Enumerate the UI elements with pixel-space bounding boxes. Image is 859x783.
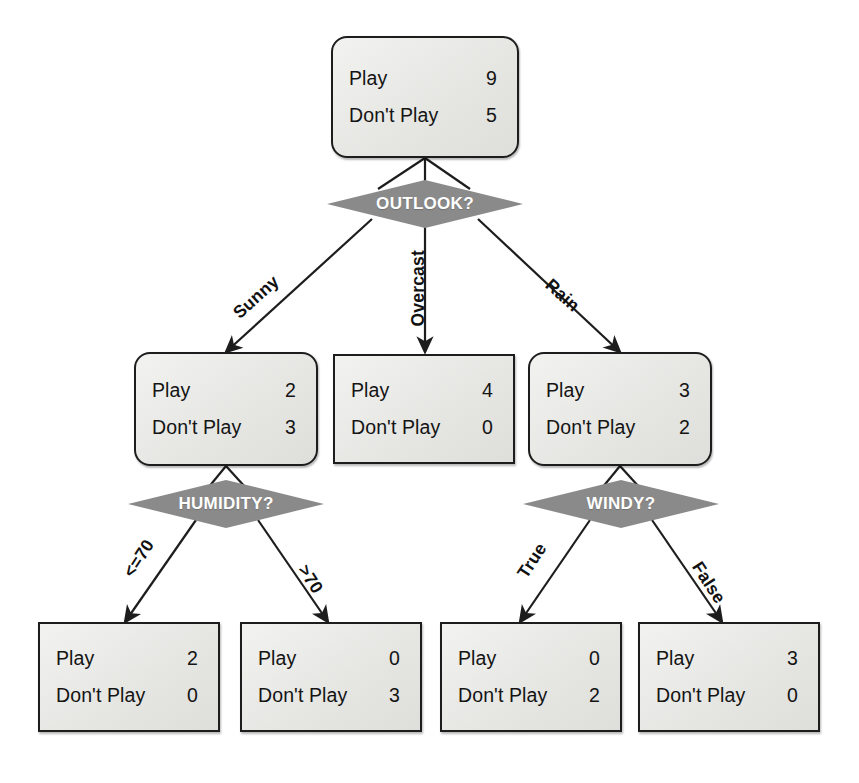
decision-label-outlook: OUTLOOK?: [376, 194, 474, 214]
node-windy-false-dontplay-label: Don't Play: [656, 686, 745, 706]
node-humidity-le70-dontplay-label: Don't Play: [56, 686, 145, 706]
node-windy-false-play-row: Play 3: [656, 649, 802, 669]
node-overcast-play-label: Play: [351, 381, 389, 401]
node-overcast-dontplay-row: Don't Play 0: [351, 418, 497, 438]
node-overcast-dontplay-label: Don't Play: [351, 418, 440, 438]
node-sunny-play-label: Play: [152, 381, 190, 401]
edge-label-rain: Rain: [541, 275, 584, 317]
node-root-dontplay-label: Don't Play: [349, 106, 438, 126]
edge-label-gt70: >70: [293, 561, 327, 598]
decision-node-humidity[interactable]: HUMIDITY?: [128, 480, 324, 528]
node-humidity-le70-play-label: Play: [56, 649, 94, 669]
node-windy-false[interactable]: Play 3 Don't Play 0: [638, 622, 820, 732]
node-root-play-label: Play: [349, 69, 387, 89]
decision-label-humidity: HUMIDITY?: [178, 494, 273, 514]
edge-label-overcast: Overcast: [408, 250, 429, 327]
node-windy-true-play-row: Play 0: [458, 649, 604, 669]
node-overcast-play-row: Play 4: [351, 381, 497, 401]
node-windy-false-play-label: Play: [656, 649, 694, 669]
edge-label-sunny: Sunny: [229, 271, 284, 323]
node-humidity-gt70-dontplay-row: Don't Play 3: [258, 686, 404, 706]
edge-label-true: True: [513, 539, 551, 582]
node-sunny-play-value: 2: [285, 381, 300, 401]
node-humidity-gt70[interactable]: Play 0 Don't Play 3: [240, 622, 422, 732]
node-rain-play-label: Play: [546, 381, 584, 401]
node-rain-dontplay-value: 2: [679, 418, 694, 438]
node-rain-dontplay-label: Don't Play: [546, 418, 635, 438]
node-humidity-le70[interactable]: Play 2 Don't Play 0: [38, 622, 220, 732]
node-humidity-gt70-play-label: Play: [258, 649, 296, 669]
decision-label-windy: WINDY?: [587, 494, 656, 514]
node-windy-true[interactable]: Play 0 Don't Play 2: [440, 622, 622, 732]
edge-label-false: False: [687, 558, 730, 608]
node-windy-true-play-label: Play: [458, 649, 496, 669]
decision-tree-diagram: Play 9 Don't Play 5 OUTLOOK? Sunny Overc…: [0, 0, 859, 783]
node-root[interactable]: Play 9 Don't Play 5: [331, 36, 519, 158]
node-overcast-play-value: 4: [482, 381, 497, 401]
node-humidity-gt70-play-row: Play 0: [258, 649, 404, 669]
node-humidity-le70-dontplay-row: Don't Play 0: [56, 686, 202, 706]
node-root-play-value: 9: [486, 69, 501, 89]
node-rain-play-row: Play 3: [546, 381, 694, 401]
decision-node-windy[interactable]: WINDY?: [523, 480, 719, 528]
node-rain[interactable]: Play 3 Don't Play 2: [528, 352, 712, 466]
node-sunny[interactable]: Play 2 Don't Play 3: [134, 352, 318, 466]
node-humidity-gt70-play-value: 0: [389, 649, 404, 669]
node-sunny-dontplay-value: 3: [285, 418, 300, 438]
node-humidity-gt70-dontplay-value: 3: [389, 686, 404, 706]
node-root-dontplay-row: Don't Play 5: [349, 106, 501, 126]
node-windy-true-dontplay-value: 2: [589, 686, 604, 706]
node-overcast[interactable]: Play 4 Don't Play 0: [333, 354, 515, 464]
node-root-dontplay-value: 5: [486, 106, 501, 126]
node-sunny-play-row: Play 2: [152, 381, 300, 401]
node-humidity-le70-dontplay-value: 0: [187, 686, 202, 706]
edge-label-le70: <=70: [119, 536, 159, 582]
decision-node-outlook[interactable]: OUTLOOK?: [327, 180, 523, 228]
node-sunny-dontplay-row: Don't Play 3: [152, 418, 300, 438]
node-windy-false-dontplay-value: 0: [787, 686, 802, 706]
node-windy-true-dontplay-label: Don't Play: [458, 686, 547, 706]
node-windy-true-play-value: 0: [589, 649, 604, 669]
node-sunny-dontplay-label: Don't Play: [152, 418, 241, 438]
edge-outlook-sunny: [226, 219, 372, 352]
node-humidity-le70-play-row: Play 2: [56, 649, 202, 669]
node-windy-false-play-value: 3: [787, 649, 802, 669]
node-root-play-row: Play 9: [349, 69, 501, 89]
node-humidity-gt70-dontplay-label: Don't Play: [258, 686, 347, 706]
node-windy-false-dontplay-row: Don't Play 0: [656, 686, 802, 706]
node-windy-true-dontplay-row: Don't Play 2: [458, 686, 604, 706]
node-rain-dontplay-row: Don't Play 2: [546, 418, 694, 438]
node-overcast-dontplay-value: 0: [482, 418, 497, 438]
node-humidity-le70-play-value: 2: [187, 649, 202, 669]
node-rain-play-value: 3: [679, 381, 694, 401]
